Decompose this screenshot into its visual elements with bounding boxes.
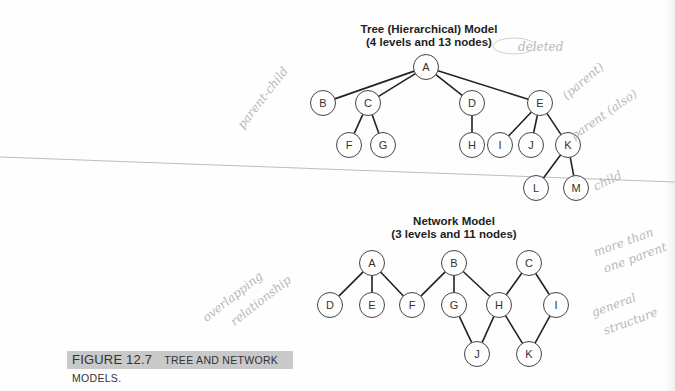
node-label: F xyxy=(346,139,353,151)
network-edge-c-h xyxy=(506,273,521,295)
tree-model-title: Tree (Hierarchical) Model (4 levels and … xyxy=(349,23,509,49)
network-nodes: ABCDEFGHIJK xyxy=(318,251,569,367)
tree-node-e: E xyxy=(528,91,553,116)
node-label: A xyxy=(368,257,376,269)
network-node-i: I xyxy=(544,293,569,318)
node-label: C xyxy=(364,97,372,109)
node-label: J xyxy=(474,348,480,360)
node-label: B xyxy=(450,257,457,269)
diagram-canvas: ABCDEFGHIJKLM ABCDEFGHIJK xyxy=(0,0,675,391)
tree-node-j: J xyxy=(519,133,544,158)
node-label: H xyxy=(468,139,476,151)
network-edge-a-f xyxy=(381,272,404,296)
tree-edge-k-m xyxy=(570,157,573,175)
node-label: F xyxy=(409,299,416,311)
tree-title-line1: Tree (Hierarchical) Model xyxy=(349,23,509,36)
tree-edge-e-k xyxy=(547,113,561,134)
tree-node-m: M xyxy=(564,176,589,201)
tree-edges xyxy=(335,71,574,178)
network-model-title: Network Model (3 levels and 11 nodes) xyxy=(374,215,534,241)
network-node-f: F xyxy=(400,293,425,318)
node-label: A xyxy=(422,61,430,73)
node-label: M xyxy=(571,182,580,194)
tree-node-c: C xyxy=(356,91,381,116)
network-edge-b-f xyxy=(421,272,445,296)
node-label: D xyxy=(468,97,476,109)
network-node-j: J xyxy=(465,342,490,367)
network-node-h: H xyxy=(487,293,512,318)
figure-number: FIGURE 12.7 xyxy=(72,352,152,367)
network-node-d: D xyxy=(318,293,343,318)
tree-node-h: H xyxy=(460,133,485,158)
node-label: C xyxy=(525,257,533,269)
node-label: G xyxy=(379,139,388,151)
tree-nodes: ABCDEFGHIJKLM xyxy=(311,55,589,201)
tree-node-i: I xyxy=(488,133,513,158)
tree-node-g: G xyxy=(371,133,396,158)
figure-caption: FIGURE 12.7Tree and Network Models. xyxy=(67,351,293,369)
network-edge-c-i xyxy=(536,274,549,295)
tree-edge-k-l xyxy=(543,155,560,178)
tree-node-l: L xyxy=(524,176,549,201)
node-label: E xyxy=(536,97,543,109)
node-label: B xyxy=(319,97,326,109)
tree-edge-e-j xyxy=(534,115,538,133)
tree-edge-a-e xyxy=(438,71,528,99)
note-deleted: deleted xyxy=(518,40,563,54)
network-edge-a-d xyxy=(339,272,363,296)
network-node-b: B xyxy=(442,251,467,276)
node-label: K xyxy=(525,348,533,360)
tree-node-a: A xyxy=(414,55,439,80)
node-label: E xyxy=(368,299,375,311)
node-label: K xyxy=(564,139,572,151)
network-node-g: G xyxy=(442,293,467,318)
tree-edge-c-f xyxy=(354,114,363,133)
tree-node-f: F xyxy=(337,133,362,158)
network-node-e: E xyxy=(360,293,385,318)
node-label: J xyxy=(528,139,534,151)
network-node-c: C xyxy=(517,251,542,276)
tree-node-b: B xyxy=(311,91,336,116)
tree-title-line2: (4 levels and 13 nodes) xyxy=(349,36,509,49)
network-edge-i-k xyxy=(535,316,550,343)
node-label: D xyxy=(326,299,334,311)
network-edge-h-j xyxy=(482,316,494,342)
network-title-line2: (3 levels and 11 nodes) xyxy=(374,228,534,241)
node-label: L xyxy=(533,182,539,194)
network-edge-g-j xyxy=(459,316,471,342)
network-node-a: A xyxy=(360,251,385,276)
node-label: H xyxy=(495,299,503,311)
node-label: G xyxy=(450,299,459,311)
scanned-page: ABCDEFGHIJKLM ABCDEFGHIJK Tree (Hierarch… xyxy=(0,0,675,391)
tree-node-d: D xyxy=(460,91,485,116)
tree-edge-c-g xyxy=(372,115,379,133)
network-edge-b-h xyxy=(463,272,490,297)
network-edge-h-k xyxy=(506,316,523,344)
node-label: I xyxy=(554,299,557,311)
network-title-line1: Network Model xyxy=(374,215,534,228)
network-node-k: K xyxy=(517,342,542,367)
node-label: I xyxy=(498,139,501,151)
